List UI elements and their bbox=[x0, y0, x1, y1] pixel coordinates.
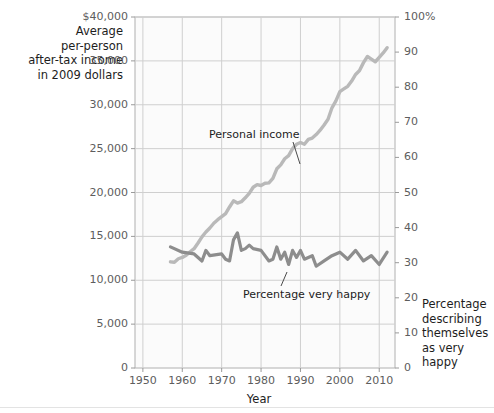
y-tick-right-70: 70 bbox=[404, 115, 454, 128]
y-tick-left-20000: 20,000 bbox=[70, 186, 128, 199]
y-tick-left-15000: 15,000 bbox=[70, 229, 128, 242]
x-tick-1960: 1960 bbox=[160, 374, 204, 387]
x-tick-1980: 1980 bbox=[239, 374, 283, 387]
x-tick-1990: 1990 bbox=[278, 374, 322, 387]
y-tick-left-30000: 30,000 bbox=[70, 98, 128, 111]
y-tick-right-60: 60 bbox=[404, 150, 454, 163]
y-tick-left-0: 0 bbox=[70, 361, 128, 374]
y-tick-right-80: 80 bbox=[404, 80, 454, 93]
chart-figure: Average per-person after-tax income in 2… bbox=[0, 0, 494, 413]
y-tick-left-40000: $40,000 bbox=[70, 10, 128, 23]
x-tick-1950: 1950 bbox=[121, 374, 165, 387]
annotation-personal-income: Personal income bbox=[209, 128, 300, 141]
y-tick-right-20: 20 bbox=[404, 291, 454, 304]
annotation-percentage-very-happy: Percentage very happy bbox=[243, 288, 370, 301]
x-tick-2010: 2010 bbox=[357, 374, 401, 387]
y-tick-right-10: 10 bbox=[404, 326, 454, 339]
y-tick-right-40: 40 bbox=[404, 221, 454, 234]
y-tick-left-35000: 35,000 bbox=[70, 54, 128, 67]
y-tick-right-50: 50 bbox=[404, 186, 454, 199]
y-tick-right-30: 30 bbox=[404, 256, 454, 269]
y-tick-right-90: 90 bbox=[404, 45, 454, 58]
y-tick-right-100: 100% bbox=[404, 10, 454, 23]
y-tick-right-0: 0 bbox=[404, 361, 454, 374]
y-tick-left-5000: 5,000 bbox=[70, 317, 128, 330]
y-tick-left-25000: 25,000 bbox=[70, 142, 128, 155]
y-tick-left-10000: 10,000 bbox=[70, 273, 128, 286]
x-tick-1970: 1970 bbox=[200, 374, 244, 387]
footer-divider bbox=[0, 407, 494, 408]
x-tick-2000: 2000 bbox=[318, 374, 362, 387]
